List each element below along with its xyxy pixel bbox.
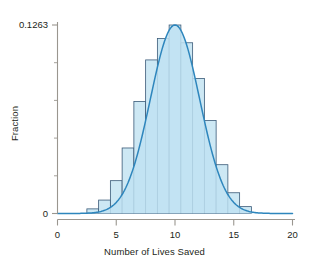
histogram-plot: 05101520 00.1263 — [0, 0, 309, 267]
density-curve-fill — [58, 25, 293, 214]
y-axis-tick-label: 0 — [43, 208, 48, 219]
x-axis-tick-label: 20 — [287, 229, 298, 240]
chart-figure: 05101520 00.1263 Number of Lives Saved F… — [0, 0, 309, 267]
x-axis-tick-label: 5 — [114, 229, 119, 240]
y-axis-title: Fraction — [9, 84, 20, 164]
y-axis-tick-labels: 00.1263 — [19, 19, 48, 219]
x-axis-ticks — [58, 220, 293, 226]
y-axis-ticks — [52, 25, 58, 214]
y-axis-tick-label: 0.1263 — [19, 19, 48, 30]
x-axis-tick-label: 10 — [170, 229, 181, 240]
x-axis-title: Number of Lives Saved — [0, 246, 309, 257]
x-axis-tick-labels: 05101520 — [55, 229, 298, 240]
x-axis-tick-label: 0 — [55, 229, 60, 240]
x-axis-tick-label: 15 — [228, 229, 239, 240]
